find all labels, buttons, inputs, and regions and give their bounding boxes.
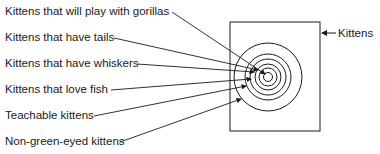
circle-tails <box>259 68 277 86</box>
pointer-gorillas <box>172 12 265 74</box>
circle-teachable <box>245 54 291 100</box>
diagram-canvas <box>0 0 380 154</box>
pointer-teachable <box>94 86 246 116</box>
circle-non-green-eyed <box>234 43 302 111</box>
pointer-non-green-eyed <box>120 99 241 142</box>
pointer-tails <box>114 38 258 70</box>
universe-box <box>230 22 320 131</box>
